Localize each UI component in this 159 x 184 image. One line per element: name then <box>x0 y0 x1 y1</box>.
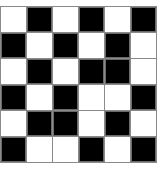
grid-cell-r5-c3[interactable] <box>53 111 78 136</box>
grid-cell-r2-c6[interactable] <box>131 33 156 58</box>
grid-cell-r6-c6[interactable] <box>131 137 156 162</box>
grid-cell-r3-c5[interactable] <box>105 59 130 84</box>
grid-cell-r4-c5[interactable] <box>105 85 130 110</box>
grid-cell-r3-c6[interactable] <box>131 59 156 84</box>
grid-cell-r3-c1[interactable] <box>1 59 26 84</box>
puzzle-grid <box>0 6 157 163</box>
grid-cell-r4-c3[interactable] <box>53 85 78 110</box>
grid-cell-r1-c6[interactable] <box>131 7 156 32</box>
grid-cell-r4-c6[interactable] <box>131 85 156 110</box>
grid-cell-r3-c4[interactable] <box>79 59 104 84</box>
grid-cell-r4-c4[interactable] <box>79 85 104 110</box>
grid-cell-r5-c1[interactable] <box>1 111 26 136</box>
grid-cell-r1-c1[interactable] <box>1 7 26 32</box>
grid-cell-r2-c3[interactable] <box>53 33 78 58</box>
grid-cell-r1-c2[interactable] <box>27 7 52 32</box>
grid-cell-r5-c6[interactable] <box>131 111 156 136</box>
grid-cell-r1-c4[interactable] <box>79 7 104 32</box>
grid-cell-r4-c1[interactable] <box>1 85 26 110</box>
grid-cell-r6-c2[interactable] <box>27 137 52 162</box>
grid-cell-r5-c5[interactable] <box>105 111 130 136</box>
grid-cell-r6-c1[interactable] <box>1 137 26 162</box>
grid-cell-r1-c3[interactable] <box>53 7 78 32</box>
grid-cell-r2-c4[interactable] <box>79 33 104 58</box>
grid-cell-r6-c3[interactable] <box>53 137 78 162</box>
grid-cell-r6-c4[interactable] <box>79 137 104 162</box>
grid-cell-r3-c2[interactable] <box>27 59 52 84</box>
grid-cell-r4-c2[interactable] <box>27 85 52 110</box>
grid-cell-r2-c2[interactable] <box>27 33 52 58</box>
grid-cell-r5-c4[interactable] <box>79 111 104 136</box>
grid-cell-r2-c5[interactable] <box>105 33 130 58</box>
grid-cell-r2-c1[interactable] <box>1 33 26 58</box>
grid-cell-r3-c3[interactable] <box>53 59 78 84</box>
grid-cell-r5-c2[interactable] <box>27 111 52 136</box>
grid-cell-r1-c5[interactable] <box>105 7 130 32</box>
grid-cell-r6-c5[interactable] <box>105 137 130 162</box>
